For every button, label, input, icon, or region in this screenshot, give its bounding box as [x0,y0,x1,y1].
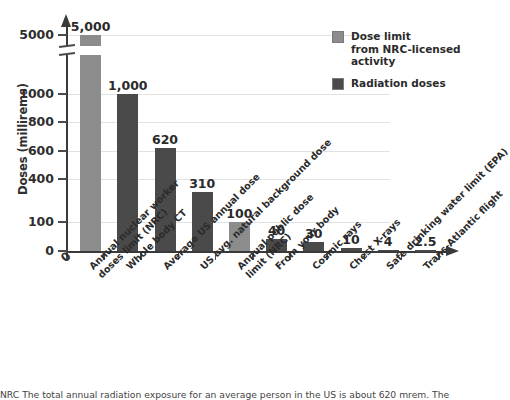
legend-color-swatch [332,78,344,90]
figure-caption: NRC The total annual radiation exposure … [0,389,469,400]
legend-label: Dose limitfrom NRC-licensedactivity [351,30,461,68]
legend-color-swatch [332,31,344,43]
legend-label: Radiation doses [351,77,446,90]
legend-entry: Dose limitfrom NRC-licensedactivity [332,30,467,68]
legend-label-line: Dose limit [351,30,461,43]
legend-label-line: activity [351,55,461,68]
chart-legend: Dose limitfrom NRC-licensedactivityRadia… [332,30,467,99]
legend-entry: Radiation doses [332,77,467,90]
legend-label-line: from NRC-licensed [351,43,461,56]
legend-label-line: Radiation doses [351,77,446,90]
